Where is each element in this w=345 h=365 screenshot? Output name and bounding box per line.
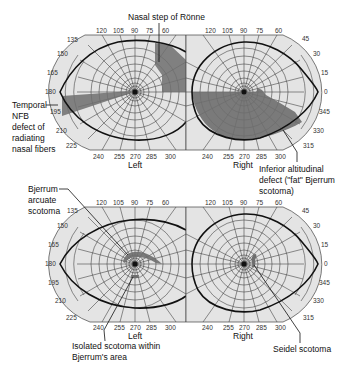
svg-text:255: 255 xyxy=(223,153,234,160)
svg-text:315: 315 xyxy=(303,142,314,149)
svg-text:75: 75 xyxy=(256,27,264,34)
svg-text:195: 195 xyxy=(50,108,61,115)
svg-text:285: 285 xyxy=(146,153,157,160)
fixation-point xyxy=(133,90,138,95)
svg-text:120: 120 xyxy=(205,27,216,34)
svg-text:195: 195 xyxy=(48,279,59,286)
svg-text:240: 240 xyxy=(202,153,213,160)
svg-text:285: 285 xyxy=(256,153,267,160)
svg-text:30: 30 xyxy=(313,222,321,229)
svg-text:150: 150 xyxy=(57,50,68,57)
svg-text:60: 60 xyxy=(275,27,283,34)
visual-field-chart-top-right: 120 105 90 75 60 45 30 15 0 345 330 315 … xyxy=(186,27,330,170)
svg-text:210: 210 xyxy=(55,297,66,304)
svg-text:Seidel scotoma: Seidel scotoma xyxy=(273,344,331,354)
svg-text:105: 105 xyxy=(222,27,233,34)
perimetry-figure: 120 105 90 75 60 135 150 165 180 195 210… xyxy=(0,0,345,365)
svg-text:60: 60 xyxy=(162,199,170,206)
svg-text:300: 300 xyxy=(165,324,176,331)
svg-text:60: 60 xyxy=(162,27,170,34)
eye-label-left: Left xyxy=(128,331,143,341)
svg-text:255: 255 xyxy=(223,324,234,331)
svg-text:scotoma): scotoma) xyxy=(259,186,294,196)
svg-text:165: 165 xyxy=(47,69,58,76)
svg-text:270: 270 xyxy=(130,153,141,160)
svg-text:45: 45 xyxy=(302,207,310,214)
eye-label-right: Right xyxy=(233,331,253,341)
svg-text:345: 345 xyxy=(319,108,330,115)
svg-text:0: 0 xyxy=(324,88,328,95)
svg-text:105: 105 xyxy=(222,199,233,206)
fixation-point xyxy=(242,262,247,267)
fixation-point xyxy=(133,262,138,267)
visual-field-chart-bottom-right: 120 105 90 75 60 45 30 15 0 345 330 315 … xyxy=(186,199,330,341)
svg-text:75: 75 xyxy=(146,199,154,206)
svg-text:150: 150 xyxy=(57,222,68,229)
svg-text:75: 75 xyxy=(146,27,154,34)
svg-text:60: 60 xyxy=(275,199,283,206)
svg-text:90: 90 xyxy=(131,27,139,34)
svg-text:90: 90 xyxy=(131,199,139,206)
svg-text:Inferior altitudinal: Inferior altitudinal xyxy=(259,164,324,174)
svg-text:45: 45 xyxy=(302,35,310,42)
svg-text:0: 0 xyxy=(324,260,328,267)
svg-text:330: 330 xyxy=(313,297,324,304)
svg-text:defect ("fat" Bjerrum: defect ("fat" Bjerrum xyxy=(259,175,335,185)
svg-text:315: 315 xyxy=(303,314,314,321)
svg-text:225: 225 xyxy=(66,142,77,149)
svg-text:240: 240 xyxy=(93,324,104,331)
fixation-point xyxy=(242,90,247,95)
svg-text:270: 270 xyxy=(130,324,141,331)
svg-text:330: 330 xyxy=(313,127,324,134)
visual-field-chart-top-left: 120 105 90 75 60 135 150 165 180 195 210… xyxy=(45,27,186,170)
svg-text:210: 210 xyxy=(56,127,67,134)
svg-text:240: 240 xyxy=(93,153,104,160)
eye-label-right: Right xyxy=(233,160,253,170)
svg-text:105: 105 xyxy=(113,199,124,206)
svg-text:15: 15 xyxy=(321,241,329,248)
svg-text:Bjerrum's area: Bjerrum's area xyxy=(72,352,127,362)
svg-text:135: 135 xyxy=(67,207,78,214)
svg-text:arcuate: arcuate xyxy=(28,195,57,205)
svg-text:300: 300 xyxy=(275,324,286,331)
svg-text:345: 345 xyxy=(319,279,330,286)
svg-text:scotoma: scotoma xyxy=(28,206,60,216)
svg-text:defect of: defect of xyxy=(12,122,45,132)
svg-text:300: 300 xyxy=(165,153,176,160)
svg-text:255: 255 xyxy=(114,153,125,160)
svg-text:180: 180 xyxy=(45,260,56,267)
svg-text:90: 90 xyxy=(240,199,248,206)
svg-text:165: 165 xyxy=(48,241,59,248)
eye-label-left: Left xyxy=(128,160,143,170)
svg-text:Isolated scotoma within: Isolated scotoma within xyxy=(72,341,161,351)
svg-text:Nasal step of Rönne: Nasal step of Rönne xyxy=(128,12,205,22)
svg-text:285: 285 xyxy=(146,324,157,331)
svg-text:Temporal: Temporal xyxy=(12,100,47,110)
svg-text:Bjerrum: Bjerrum xyxy=(28,184,58,194)
svg-text:105: 105 xyxy=(113,27,124,34)
svg-text:180: 180 xyxy=(45,88,56,95)
svg-text:135: 135 xyxy=(67,36,78,43)
svg-text:240: 240 xyxy=(202,324,213,331)
svg-text:255: 255 xyxy=(114,324,125,331)
visual-field-chart-bottom-left: 120 105 90 75 60 135 150 165 180 195 210… xyxy=(45,199,186,341)
svg-text:NFB: NFB xyxy=(12,111,29,121)
svg-text:300: 300 xyxy=(275,153,286,160)
svg-text:270: 270 xyxy=(239,153,250,160)
svg-text:15: 15 xyxy=(321,69,329,76)
svg-text:nasal fibers: nasal fibers xyxy=(12,144,55,154)
svg-text:285: 285 xyxy=(256,324,267,331)
svg-text:90: 90 xyxy=(240,27,248,34)
isolated-scotoma xyxy=(131,275,139,278)
svg-text:120: 120 xyxy=(96,27,107,34)
svg-text:225: 225 xyxy=(66,314,77,321)
svg-text:120: 120 xyxy=(205,199,216,206)
svg-text:75: 75 xyxy=(256,199,264,206)
svg-text:30: 30 xyxy=(313,50,321,57)
svg-text:radiating: radiating xyxy=(12,133,45,143)
svg-text:270: 270 xyxy=(239,324,250,331)
svg-text:120: 120 xyxy=(96,199,107,206)
